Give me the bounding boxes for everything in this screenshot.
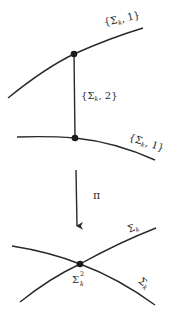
label-crossing-node: Σ 2 k [72,275,79,285]
projection-arrow [76,170,77,226]
upper-vertical-segment [74,54,75,138]
label-vertical-segment: {Σk, 2} [81,91,118,103]
upper-top-node [71,51,78,58]
lower-curve-b [20,228,156,302]
label-sub: k [80,281,84,288]
upper-bottom-node [72,135,79,142]
label-sup: 2 [80,271,84,278]
label-projection: π [93,190,100,201]
stacked-script: Σ 2 k [72,275,79,285]
label-symbol: Σ [72,274,79,285]
label-rest: , 1} [120,9,141,24]
label-rest: , 2} [98,90,117,101]
upper-top-curve [8,28,143,98]
lower-crossing-node [77,261,84,268]
